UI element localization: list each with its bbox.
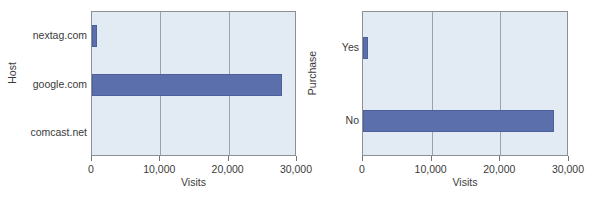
x-tick-purchase-0: [362, 156, 363, 161]
bar-host-0: [92, 25, 97, 47]
y-axis-title-purchase: Purchase: [304, 0, 320, 145]
y-axis-tick-labels-purchase: YesNo: [322, 11, 362, 156]
chart-purchase: Purchase YesNo 010,00020,00030,000 Visit…: [296, 0, 596, 200]
x-tick-label-host-2: 20,000: [212, 163, 244, 175]
x-tick-label-purchase-2: 20,000: [483, 163, 515, 175]
x-tick-label-purchase-0: 0: [359, 163, 365, 175]
x-tick-host-0: [91, 156, 92, 161]
x-tick-label-host-1: 10,000: [143, 163, 175, 175]
bar-purchase-0: [363, 37, 368, 59]
x-axis-title-purchase: Visits: [362, 176, 568, 188]
y-tick-label-host-2: comcast.net: [30, 126, 87, 138]
plot-area-host: [91, 11, 296, 156]
y-tick-label-purchase-1: No: [346, 114, 359, 126]
x-tick-purchase-3: [568, 156, 569, 161]
y-tick-label-host-1: google.com: [33, 78, 87, 90]
x-tick-label-host-0: 0: [88, 163, 94, 175]
figure-two-bar-charts: Host nextag.comgoogle.comcomcast.net 010…: [0, 0, 596, 200]
x-tick-purchase-2: [499, 156, 500, 161]
bar-purchase-1: [363, 110, 554, 132]
x-tick-label-purchase-1: 10,000: [415, 163, 447, 175]
chart-host: Host nextag.comgoogle.comcomcast.net 010…: [0, 0, 300, 200]
gridline: [500, 12, 501, 155]
x-axis-title-host: Visits: [91, 176, 296, 188]
x-tick-label-purchase-3: 30,000: [552, 163, 584, 175]
x-tick-host-1: [159, 156, 160, 161]
bar-host-1: [92, 74, 282, 96]
y-tick-label-host-0: nextag.com: [33, 29, 87, 41]
gridline: [432, 12, 433, 155]
y-tick-label-purchase-0: Yes: [342, 41, 359, 53]
x-tick-host-2: [228, 156, 229, 161]
x-tick-purchase-1: [431, 156, 432, 161]
y-axis-tick-labels-host: nextag.comgoogle.comcomcast.net: [16, 11, 90, 156]
plot-area-purchase: [362, 11, 568, 156]
